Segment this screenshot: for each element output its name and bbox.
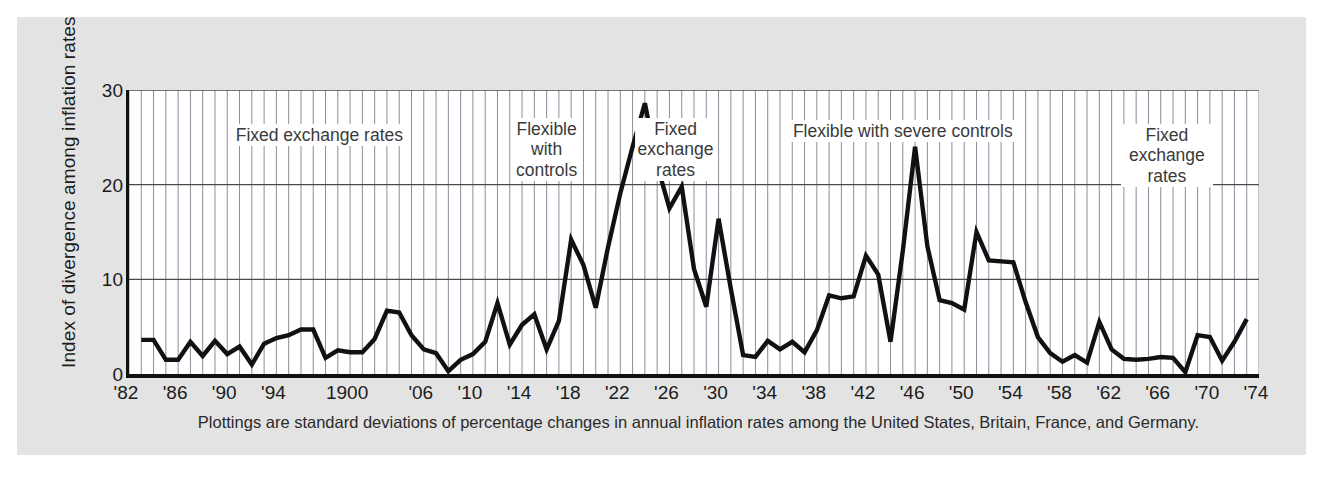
y-axis-tick-30: 30 [87, 80, 123, 102]
x-axis-tick-94: '94 [261, 382, 286, 404]
annotation-flexible-with-controls: Flexible with controls [513, 118, 580, 181]
annotation-fixed-exchange-rates-2: Fixed exchange rates [635, 118, 717, 181]
x-axis-tick-06: '06 [408, 382, 433, 404]
x-axis-tick-70: '70 [1194, 382, 1219, 404]
y-axis-tick-10: 10 [87, 269, 123, 291]
x-axis-tick-38: '38 [801, 382, 826, 404]
x-axis-tick-1900: 1900 [326, 382, 368, 404]
y-axis-tick-20: 20 [87, 175, 123, 197]
x-axis-tick-34: '34 [752, 382, 777, 404]
chart-caption: Plottings are standard deviations of per… [126, 413, 1271, 432]
x-axis-tick-26: '26 [654, 382, 679, 404]
x-axis-tick-14: '14 [507, 382, 532, 404]
annotation-flexible-with-severe-controls: Flexible with severe controls [790, 120, 1016, 142]
x-axis-tick-22: '22 [605, 382, 630, 404]
x-axis-tick-42: '42 [851, 382, 876, 404]
x-axis-tick-66: '66 [1145, 382, 1170, 404]
annotation-fixed-exchange-rates-1: Fixed exchange rates [233, 124, 406, 146]
x-axis-tick-74: '74 [1244, 382, 1269, 404]
plot-area: Fixed exchange ratesFlexible with contro… [126, 90, 1259, 378]
x-axis-tick-58: '58 [1047, 382, 1072, 404]
x-axis-tick-82: '82 [114, 382, 139, 404]
x-axis-tick-30: '30 [703, 382, 728, 404]
x-axis-tick-10: '10 [458, 382, 483, 404]
x-axis-tick-50: '50 [949, 382, 974, 404]
x-axis-tick-86: '86 [163, 382, 188, 404]
chart-panel: Index of divergence among inflation rate… [17, 17, 1306, 455]
chart-figure: Index of divergence among inflation rate… [0, 0, 1323, 492]
x-axis-tick-62: '62 [1096, 382, 1121, 404]
x-axis-tick-90: '90 [212, 382, 237, 404]
x-axis-tick-54: '54 [998, 382, 1023, 404]
x-axis-tick-18: '18 [556, 382, 581, 404]
x-axis-tick-labels: '82'86'90'941900'06'10'14'18'22'26'30'34… [126, 382, 1286, 410]
annotation-fixed-exchange-rates-3: Fixed exchange rates [1121, 124, 1213, 187]
x-axis-tick-46: '46 [900, 382, 925, 404]
